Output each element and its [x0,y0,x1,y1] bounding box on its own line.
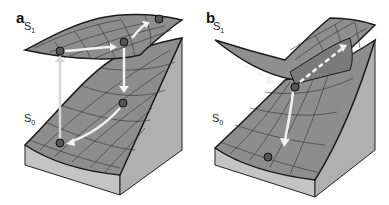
ball-s1-mid [120,38,128,46]
ball-s0-min [56,139,64,147]
state-label-s1: S1 [213,20,224,34]
panel-a: a S1 S0 [0,0,195,205]
s0-subscript: 0 [31,119,35,126]
ball-intersection [291,83,299,91]
state-label-s0: S0 [24,112,35,126]
s1-subscript: 1 [31,27,35,34]
ball-s0-mid [119,99,127,107]
ball-s1-start [56,47,64,55]
s1-subscript: 1 [220,27,224,34]
s0-subscript: 0 [219,119,223,126]
state-label-s0: S0 [212,112,223,126]
state-label-s1: S1 [24,20,35,34]
ball-s0-min [264,153,272,161]
ball-s1-top [155,15,163,23]
panel-b: b S1 S0 [195,0,389,205]
